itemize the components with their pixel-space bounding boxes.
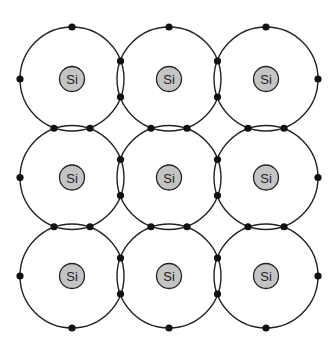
atom-label: Si [163,171,175,186]
silicon-atom: Si [214,27,318,131]
electron-dot [50,125,57,132]
atom-label: Si [260,171,272,186]
electron-dot [86,125,93,132]
silicon-atom: Si [20,27,124,131]
electron-dot [314,174,321,181]
electron-dot [244,125,251,132]
electron-dot [214,192,221,199]
electron-dot [262,324,269,331]
electron-dot [117,93,124,100]
atom-label: Si [66,72,78,87]
electron-dot [147,223,154,230]
electron-dot [314,272,321,279]
silicon-atom: Si [214,224,318,328]
silicon-atom: Si [117,224,221,328]
electron-dot [214,93,221,100]
atom-label: Si [260,269,272,284]
electron-dot [214,254,221,261]
electron-dot [183,223,190,230]
silicon-atom: Si [20,224,124,328]
atom-label: Si [66,269,78,284]
electron-dot [68,324,75,331]
electron-dot [183,125,190,132]
electron-dot [16,272,23,279]
electron-dot [280,125,287,132]
atom-label: Si [163,72,175,87]
electron-dot [117,192,124,199]
electron-dot [147,125,154,132]
electron-dot [244,223,251,230]
atom-label: Si [260,72,272,87]
silicon-atom: Si [117,27,221,131]
silicon-atom: Si [20,126,124,230]
silicon-atom: Si [117,126,221,230]
electron-dot [16,174,23,181]
electron-dot [117,57,124,64]
electron-dot [165,23,172,30]
electron-dot [262,23,269,30]
electron-dot [68,23,75,30]
electron-dot [16,75,23,82]
electron-dot [86,223,93,230]
electron-dot [280,223,287,230]
electron-dot [165,324,172,331]
electron-dot [214,290,221,297]
electron-dot [50,223,57,230]
electron-dot [117,156,124,163]
electron-dot [214,57,221,64]
electron-dot [117,254,124,261]
silicon-lattice-diagram: SiSiSiSiSiSiSiSiSi [0,0,335,345]
silicon-atom: Si [214,126,318,230]
electron-dot [117,290,124,297]
atom-label: Si [163,269,175,284]
electron-dot [214,156,221,163]
electron-dot [314,75,321,82]
atom-label: Si [66,171,78,186]
